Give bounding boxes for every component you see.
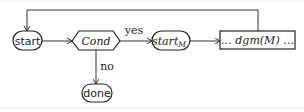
node-start: start — [13, 31, 42, 50]
node-cond: Cond — [72, 31, 120, 50]
node-done: done — [82, 84, 112, 102]
node-start-label: start — [15, 35, 41, 48]
node-dgm: … dgm(M) … — [220, 31, 295, 49]
node-done-label: done — [83, 87, 111, 100]
node-start-m: startM — [152, 31, 190, 50]
node-dgm-label: … dgm(M) … — [221, 34, 294, 47]
edge-label-no: no — [100, 60, 114, 73]
edge-label-yes: yes — [124, 24, 144, 37]
flowchart-diagram: start Cond yes startM … dgm(M) … no done — [0, 0, 304, 112]
node-cond-label: Cond — [81, 35, 110, 48]
